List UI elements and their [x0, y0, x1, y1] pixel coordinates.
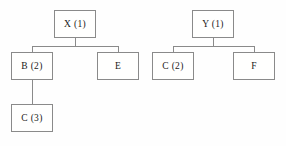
edge-left-bus: [32, 46, 119, 47]
node-x1-label: X (1): [64, 19, 86, 29]
edge-x1-to-bus: [75, 38, 76, 46]
tree-diagram-canvas: X (1) B (2) E C (3) Y (1) C (2) F: [0, 0, 286, 146]
node-e[interactable]: E: [97, 52, 139, 80]
edge-right-bus: [173, 46, 255, 47]
node-y1[interactable]: Y (1): [192, 10, 234, 38]
node-c2[interactable]: C (2): [152, 52, 194, 80]
node-f[interactable]: F: [233, 52, 275, 80]
node-c3-label: C (3): [21, 113, 42, 123]
node-b2-label: B (2): [21, 61, 42, 71]
node-f-label: F: [251, 61, 257, 71]
node-x1[interactable]: X (1): [54, 10, 96, 38]
node-y1-label: Y (1): [202, 19, 223, 29]
node-c3[interactable]: C (3): [11, 104, 53, 132]
node-e-label: E: [115, 61, 121, 71]
edge-b2-to-c3: [32, 80, 33, 104]
node-c2-label: C (2): [162, 61, 183, 71]
edge-y1-to-bus: [213, 38, 214, 46]
node-b2[interactable]: B (2): [11, 52, 53, 80]
